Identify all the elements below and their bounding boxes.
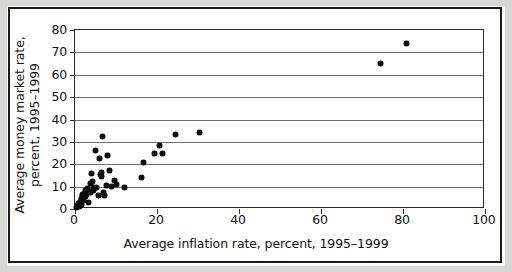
x-axis-label: Average inflation rate, percent, 1995–19… xyxy=(0,236,512,251)
y-tick-mark-10 xyxy=(70,187,75,188)
figure-root: 01020304050607080 020406080100 Average i… xyxy=(0,0,512,272)
x-tick-mark-20 xyxy=(157,209,158,214)
page-margin-bottom xyxy=(0,266,512,272)
x-tick-label-80: 80 xyxy=(394,212,410,227)
y-tick-mark-40 xyxy=(70,120,75,121)
gridline-y-20 xyxy=(75,164,483,165)
gridline-y-10 xyxy=(75,187,483,188)
y-tick-label-40: 40 xyxy=(51,111,67,126)
data-point xyxy=(104,183,109,188)
y-tick-label-20: 20 xyxy=(51,156,67,171)
page-margin-right xyxy=(505,0,512,272)
y-tick-label-70: 70 xyxy=(51,44,67,59)
y-tick-mark-30 xyxy=(70,142,75,143)
data-point xyxy=(160,151,165,156)
data-point xyxy=(122,185,127,190)
x-tick-mark-40 xyxy=(239,209,240,214)
data-point xyxy=(102,193,107,198)
data-point xyxy=(404,41,409,46)
gridline-y-30 xyxy=(75,142,483,143)
data-point xyxy=(105,153,110,158)
y-tick-mark-70 xyxy=(70,52,75,53)
data-point xyxy=(157,143,162,148)
data-point xyxy=(86,200,91,205)
y-tick-mark-50 xyxy=(70,97,75,98)
plot-area xyxy=(74,29,484,208)
gridline-y-70 xyxy=(75,52,483,53)
gridline-y-40 xyxy=(75,120,483,121)
data-point xyxy=(99,174,104,179)
y-tick-label-30: 30 xyxy=(51,133,67,148)
data-point xyxy=(100,134,105,139)
data-point xyxy=(152,151,157,156)
x-tick-label-0: 0 xyxy=(70,212,78,227)
data-point xyxy=(93,148,98,153)
y-axis-label: Average money market rate, percent, 1995… xyxy=(12,23,42,228)
page-margin-top xyxy=(0,0,512,6)
x-tick-label-100: 100 xyxy=(472,212,495,227)
x-axis-tick-labels: 020406080100 xyxy=(0,212,512,230)
gridline-y-50 xyxy=(75,97,483,98)
y-axis-label-line-1: Average money market rate, xyxy=(12,23,27,228)
y-tick-label-60: 60 xyxy=(51,66,67,81)
data-point xyxy=(107,168,112,173)
y-axis-tick-labels: 01020304050607080 xyxy=(40,0,67,272)
data-point xyxy=(173,132,178,137)
x-tick-label-40: 40 xyxy=(230,212,246,227)
y-tick-mark-60 xyxy=(70,75,75,76)
y-tick-label-10: 10 xyxy=(51,178,67,193)
data-point xyxy=(89,171,94,176)
data-point xyxy=(109,184,114,189)
y-axis-label-line-2: percent, 1995–1999 xyxy=(27,23,42,228)
y-tick-label-80: 80 xyxy=(51,22,67,37)
x-tick-mark-80 xyxy=(403,209,404,214)
data-point xyxy=(141,160,146,165)
data-point xyxy=(378,61,383,66)
y-tick-mark-20 xyxy=(70,164,75,165)
data-point xyxy=(90,179,95,184)
data-point xyxy=(139,175,144,180)
data-point xyxy=(94,185,99,190)
x-tick-label-20: 20 xyxy=(148,212,164,227)
gridline-y-60 xyxy=(75,75,483,76)
page-margin-left xyxy=(0,0,7,272)
data-point xyxy=(97,156,102,161)
x-tick-label-60: 60 xyxy=(312,212,328,227)
x-tick-mark-100 xyxy=(485,209,486,214)
data-point xyxy=(197,130,202,135)
y-tick-mark-80 xyxy=(70,30,75,31)
x-tick-mark-60 xyxy=(321,209,322,214)
y-tick-label-50: 50 xyxy=(51,89,67,104)
